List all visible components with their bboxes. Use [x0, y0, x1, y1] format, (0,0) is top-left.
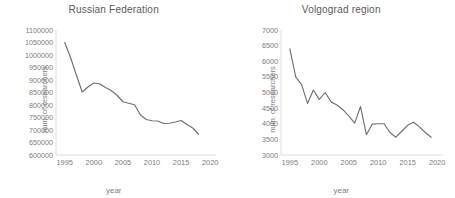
x-tick-label: 2000	[311, 158, 327, 167]
x-tick-label: 2010	[144, 158, 160, 167]
axis-lines-right	[281, 30, 443, 155]
plot-area-left: 6000006500007000007500008000008500009000…	[0, 0, 228, 198]
figure-container: Russian Federation num. of researchers y…	[0, 0, 455, 198]
y-tick-label: 1000000	[25, 51, 53, 60]
y-tick-label: 750000	[29, 113, 53, 122]
y-tick-label: 5500	[262, 72, 278, 81]
x-tick-label: 2005	[340, 158, 356, 167]
y-tick-label: 800000	[29, 101, 53, 110]
y-tick-label: 3500	[262, 135, 278, 144]
x-tick-labels-right: 199520002005201020152020	[281, 158, 445, 167]
chart-panel-russian-federation: Russian Federation num. of researchers y…	[0, 0, 228, 198]
y-tick-label: 4500	[262, 104, 278, 113]
y-tick-label: 850000	[29, 88, 53, 97]
y-tick-label: 950000	[29, 63, 53, 72]
y-tick-label: 650000	[29, 138, 53, 147]
x-tick-label: 2020	[428, 158, 444, 167]
plot-area-right: 300035004000450050005500600065007000 199…	[228, 0, 455, 198]
x-tick-label: 1995	[281, 158, 297, 167]
x-tick-label: 1995	[57, 158, 73, 167]
y-tick-label: 4000	[262, 119, 278, 128]
x-tick-label: 2015	[173, 158, 189, 167]
chart-panel-volgograd-region: Volgograd region num. of researchers yea…	[228, 0, 455, 198]
series-line-left	[65, 43, 199, 135]
x-tick-label: 2020	[202, 158, 218, 167]
x-tick-label: 2015	[399, 158, 415, 167]
y-tick-label: 1100000	[26, 26, 53, 35]
x-tick-label: 2000	[86, 158, 102, 167]
y-tick-label: 900000	[29, 76, 53, 85]
y-tick-labels-left: 6000006500007000007500008000008500009000…	[25, 26, 53, 160]
y-tick-label: 5000	[262, 88, 278, 97]
y-tick-label: 600000	[29, 151, 53, 160]
x-tick-label: 2005	[115, 158, 131, 167]
x-tick-label: 2010	[369, 158, 385, 167]
y-tick-labels-right: 300035004000450050005500600065007000	[262, 26, 278, 160]
y-tick-label: 700000	[29, 126, 53, 135]
x-tick-labels-left: 199520002005201020152020	[57, 158, 219, 167]
y-tick-label: 1050000	[25, 38, 53, 47]
y-tick-label: 6500	[262, 41, 278, 50]
y-tick-label: 6000	[262, 57, 278, 66]
series-line-right	[289, 49, 430, 137]
axis-lines-left	[56, 30, 216, 155]
y-tick-label: 3000	[262, 151, 278, 160]
y-tick-label: 7000	[262, 26, 278, 35]
